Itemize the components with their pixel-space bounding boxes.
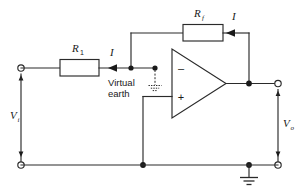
- resistor-r1-subscript: 1: [80, 49, 84, 56]
- opamp-noninverting-input-sign: +: [178, 91, 184, 103]
- resistor-r1-label: R: [71, 42, 79, 54]
- circuit-diagram-figure: V i R 1 I R f I – +: [0, 0, 302, 195]
- ground-symbol: [240, 165, 258, 185]
- circuit-schematic-canvas: V i R 1 I R f I – +: [0, 0, 302, 195]
- junction-dot-virtual-earth: [152, 65, 157, 70]
- resistor-rf-subscript: f: [202, 14, 205, 22]
- opamp-inverting-input-sign: –: [178, 62, 185, 74]
- current-input-label: I: [109, 46, 115, 58]
- resistor-rf-body: [183, 25, 223, 42]
- current-arrow-input-icon: [108, 64, 117, 72]
- current-feedback-label: I: [231, 10, 237, 22]
- virtual-earth-label-line2: earth: [108, 88, 130, 99]
- input-voltage-subscript: i: [18, 116, 20, 124]
- junction-dot-feedback-tap: [128, 65, 133, 70]
- current-arrow-feedback-icon: [226, 29, 235, 37]
- operational-amplifier-body: [172, 49, 226, 118]
- output-voltage-subscript: o: [291, 124, 295, 132]
- resistor-r1-body: [60, 60, 99, 77]
- output-terminal-top[interactable]: [275, 80, 281, 86]
- resistor-rf-label: R: [193, 7, 201, 19]
- virtual-earth-label-line1: Virtual: [108, 77, 135, 88]
- vo-arrow-down-icon: [276, 152, 281, 157]
- junction-dot-output: [246, 81, 252, 87]
- vi-arrow-down-icon: [19, 152, 24, 157]
- virtual-earth-ground-symbol: [149, 86, 162, 91]
